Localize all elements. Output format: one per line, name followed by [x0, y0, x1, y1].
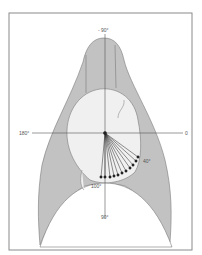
label-right: 0: [185, 130, 188, 136]
label-top: - 90°: [98, 27, 109, 33]
label-left: 180°: [19, 130, 29, 136]
label-arrow-end: 100°: [91, 183, 101, 189]
origin-point: [103, 131, 106, 134]
cardiac-axis-diagram: - 90° 180° 0 40° 100° 90°: [0, 0, 202, 255]
label-arrow-start: 40°: [143, 158, 151, 164]
label-bottom: 90°: [101, 214, 109, 220]
